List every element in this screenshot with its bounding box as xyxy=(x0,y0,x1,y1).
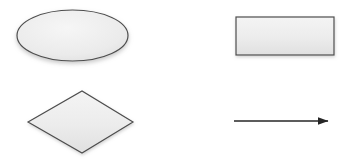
shapes-drawing-surface[interactable] xyxy=(0,0,356,163)
shapes-canvas[interactable] xyxy=(0,0,356,163)
rectangle-outline[interactable] xyxy=(236,17,334,55)
ellipse-shape[interactable] xyxy=(17,10,128,61)
rectangle-shape[interactable] xyxy=(236,17,334,55)
ellipse-outline[interactable] xyxy=(17,10,128,61)
